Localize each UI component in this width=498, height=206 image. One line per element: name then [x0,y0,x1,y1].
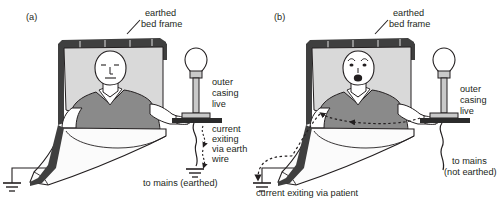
a-current-label-line1: current [212,124,241,134]
a-lamp-bulb [185,48,207,72]
a-lamp-label-line2: casing [212,88,239,98]
b-mains-label-line1: to mains [452,156,487,166]
b-bedframe-label-line1: earthed [393,8,424,18]
b-lamp-stem [441,78,447,113]
a-earth-symbol-mains [186,169,204,177]
b-lamp-label-line2: casing [460,95,487,105]
b-mouth-open [354,74,362,81]
b-mains-cord [440,123,444,170]
figure-root: (a) earthed bed frame outer casing live … [0,0,498,206]
a-mains-label: to mains (earthed) [143,178,218,188]
b-lamp [430,48,458,118]
a-lamp-stem [193,78,199,113]
a-table [172,118,222,123]
a-earth-symbol-bed [3,183,21,191]
panel-a [3,20,222,191]
a-current-label-line4: wire [212,154,229,164]
panel-b-tag: (b) [274,12,285,22]
a-mains-cord [193,123,197,166]
b-bedframe-label-line2: bed frame [389,19,430,29]
a-bedframe-label-line2: bed frame [141,19,182,29]
b-current-label: current exiting via patient [256,188,358,198]
b-lamp-collar [438,71,450,78]
b-lamp-bulb [433,48,455,72]
a-current-label-line3: via earth [212,144,247,154]
a-bedframe-leader [127,20,140,34]
a-lamp-base [182,113,210,118]
b-lamp-label-line3: live [460,106,474,116]
b-lamp-label-line1: outer [460,84,481,94]
b-table [420,118,470,123]
panel-b [253,20,470,191]
b-mains-label-line2: (not earthed) [444,167,497,177]
a-lamp [182,48,210,118]
diagram-svg [0,0,498,206]
panel-a-tag: (a) [26,12,37,22]
a-current-label-line2: exiting [212,134,239,144]
a-current-arrows [202,126,205,166]
b-lamp-base [430,113,458,118]
a-lamp-label-line1: outer [212,77,233,87]
b-bedframe-leader [375,20,388,34]
a-bedframe-label-line1: earthed [145,8,176,18]
a-lamp-collar [190,71,202,78]
a-lamp-label-line3: live [212,99,226,109]
